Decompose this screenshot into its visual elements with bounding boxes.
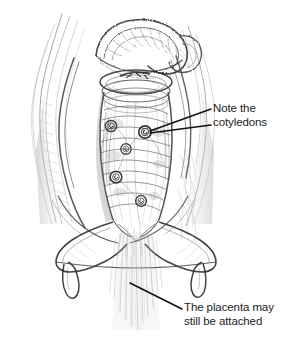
annotation-placenta-line1: The placenta may	[184, 301, 274, 313]
cord-loop	[96, 20, 201, 79]
cotyledon	[139, 126, 151, 138]
annotation-placenta-line2: still be attached	[184, 315, 262, 327]
trailing-membranes	[110, 228, 162, 330]
canal-wall-left-shading	[36, 86, 68, 224]
annotation-cotyledons: Note thecotyledons	[213, 102, 267, 129]
annotation-cotyledons-line1: Note the	[213, 102, 256, 114]
textured-cord-body	[96, 92, 172, 237]
annotation-cotyledons-line2: cotyledons	[213, 116, 267, 128]
illustration-page: Note thecotyledons The placenta maystill…	[0, 0, 293, 355]
annotation-placenta: The placenta maystill be attached	[184, 301, 274, 328]
